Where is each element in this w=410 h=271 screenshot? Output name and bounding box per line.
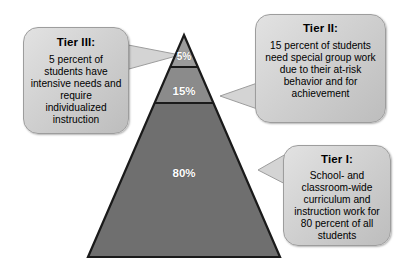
pyramid-label-tier1: 80% xyxy=(159,167,209,179)
diagram-canvas: 5% 15% 80% Tier III: 5 percent of studen… xyxy=(0,0,410,271)
callout-tier2-title: Tier II: xyxy=(303,22,338,35)
callout-tier1-body: School- and classroom-wide curriculum an… xyxy=(284,170,390,243)
pyramid-label-tier3: 5% xyxy=(159,51,209,62)
callout-tier1-title: Tier I: xyxy=(321,153,353,166)
callout-tier3: Tier III: 5 percent of students have int… xyxy=(23,27,129,134)
callout-tier2-body: 15 percent of students need special grou… xyxy=(256,40,385,100)
callout-tier1: Tier I: School- and classroom-wide curri… xyxy=(283,145,391,246)
callout-tier3-title: Tier III: xyxy=(57,36,95,49)
callout-tier3-body: 5 percent of students have intensive nee… xyxy=(24,54,128,127)
pyramid-label-tier2: 15% xyxy=(159,85,209,97)
callout-tier2: Tier II: 15 percent of students need spe… xyxy=(255,14,386,123)
